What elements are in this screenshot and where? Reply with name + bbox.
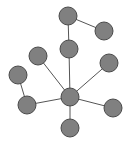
graph-node — [61, 88, 79, 106]
graph-node — [9, 66, 27, 84]
graph-node — [104, 99, 122, 117]
graph-node — [29, 47, 47, 65]
graph-node — [60, 40, 78, 58]
network-graph-canvas — [0, 0, 130, 145]
graph-node — [59, 7, 77, 25]
graph-node — [100, 54, 118, 72]
graph-node — [18, 96, 36, 114]
graph-node — [95, 22, 113, 40]
graph-node — [61, 119, 79, 137]
network-graph-figure — [0, 0, 130, 145]
